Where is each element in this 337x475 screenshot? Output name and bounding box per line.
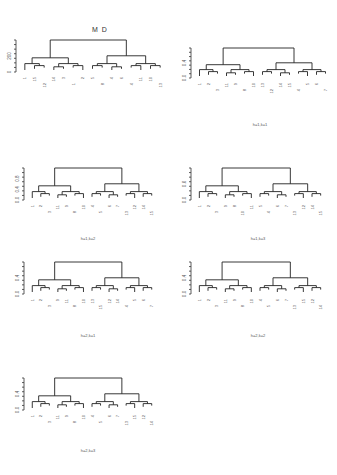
leaf-label: 11: [55, 414, 60, 419]
leaf-label: 15: [132, 414, 137, 419]
dendrogram-plot: 0.00.4123119810456713151214: [0, 0, 337, 475]
leaf-label: 13: [124, 420, 129, 425]
leaf-label: 2: [38, 414, 43, 417]
leaf-label: 14: [149, 420, 154, 425]
caption-h2-k3: h=2,k=3: [68, 448, 108, 453]
leaf-label: 6: [107, 414, 112, 417]
leaf-label: 5: [98, 420, 103, 423]
caption-h1-k2: h=1,k=2: [68, 236, 108, 241]
leaf-label: 1: [30, 414, 35, 417]
caption-h1-k3: h=1,k=3: [238, 236, 278, 241]
leaf-label: 10: [81, 414, 86, 419]
leaf-label: 8: [72, 420, 77, 423]
leaf-label: 9: [64, 414, 69, 417]
y-tick-label: 0.4: [15, 390, 20, 397]
leaf-label: 3: [47, 420, 52, 423]
leaf-label: 12: [141, 414, 146, 419]
caption-h1-k1: h=1,k=1: [240, 122, 280, 127]
caption-h2-k1: h=2,k=1: [68, 333, 108, 338]
leaf-label: 4: [90, 414, 95, 417]
caption-h2-k2: h=2,k=2: [238, 333, 278, 338]
leaf-label: 7: [115, 414, 120, 417]
y-tick-label: 0.0: [15, 406, 20, 413]
